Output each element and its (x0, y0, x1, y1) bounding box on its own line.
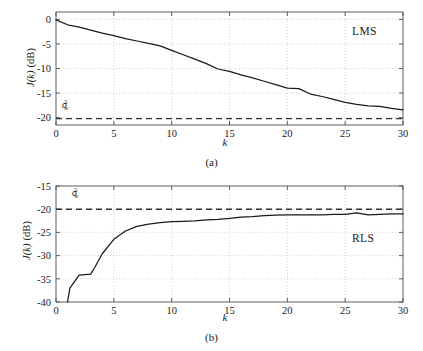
sigma-superscript-a: 2 (64, 98, 67, 105)
chart-panel-a: 0510152025300-5-10-15-20 J(k) (dB) k LMS… (0, 0, 423, 175)
sigma-subscript-b: w (74, 192, 78, 199)
x-axis-label-a: k (215, 136, 235, 148)
y-axis-label-b-math: J(k) (21, 243, 32, 260)
svg-text:-15: -15 (37, 181, 51, 192)
svg-text:-10: -10 (37, 63, 51, 74)
svg-text:5: 5 (111, 128, 116, 139)
sigma-w-squared-label-b: σw2 (72, 186, 77, 199)
svg-text:30: 30 (398, 305, 409, 316)
svg-text:-15: -15 (37, 88, 51, 99)
figure-container: 0510152025300-5-10-15-20 J(k) (dB) k LMS… (0, 0, 423, 351)
svg-text:25: 25 (340, 305, 351, 316)
svg-text:20: 20 (282, 305, 293, 316)
annotation-lms: LMS (352, 25, 377, 37)
sigma-superscript-b: 2 (74, 186, 77, 193)
y-axis-label-a-unit: (dB) (25, 48, 36, 68)
annotation-rls: RLS (352, 232, 374, 244)
svg-text:0: 0 (53, 305, 58, 316)
svg-text:-30: -30 (37, 250, 51, 261)
svg-text:-20: -20 (37, 204, 51, 215)
svg-text:10: 10 (166, 128, 177, 139)
svg-text:-35: -35 (37, 274, 51, 285)
y-axis-label-b-unit: (dB) (21, 221, 32, 241)
panel-caption-b: (b) (0, 331, 423, 343)
svg-text:10: 10 (166, 305, 177, 316)
chart-plot-b: 051015202530-15-20-25-30-35-40 (0, 175, 423, 320)
svg-text:25: 25 (340, 128, 351, 139)
panel-caption-a: (a) (0, 156, 423, 168)
svg-text:30: 30 (398, 128, 409, 139)
svg-text:0: 0 (46, 14, 51, 25)
chart-panel-b: 051015202530-15-20-25-30-35-40 J(k) (dB)… (0, 175, 423, 351)
svg-text:-40: -40 (37, 297, 51, 308)
y-axis-label-b: J(k) (dB) (21, 201, 32, 281)
x-axis-label-b: k (215, 311, 235, 323)
svg-text:-25: -25 (37, 227, 51, 238)
chart-plot-a: 0510152025300-5-10-15-20 (0, 0, 423, 145)
y-axis-label-a: J(k) (dB) (25, 28, 36, 108)
sigma-w-squared-label-a: σw2 (62, 98, 67, 111)
svg-text:-20: -20 (37, 112, 51, 123)
svg-text:5: 5 (111, 305, 116, 316)
svg-text:20: 20 (282, 128, 293, 139)
svg-text:-5: -5 (42, 39, 51, 50)
y-axis-label-a-math: J(k) (25, 70, 36, 87)
sigma-subscript-a: w (64, 104, 68, 111)
svg-text:0: 0 (53, 128, 58, 139)
